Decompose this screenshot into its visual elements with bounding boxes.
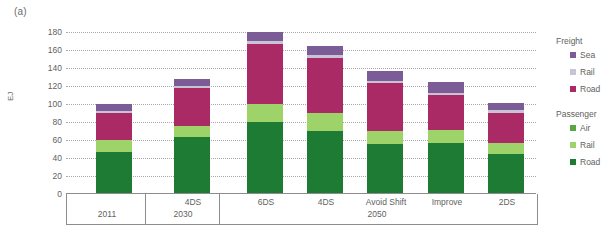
bar-segment[interactable] <box>247 32 283 41</box>
legend-group-title: Freight <box>556 36 613 46</box>
bar-segment[interactable] <box>174 88 210 126</box>
bar-stack[interactable] <box>247 32 283 194</box>
bar-segment[interactable] <box>174 86 210 88</box>
category-label: Improve <box>432 197 463 207</box>
legend-swatch-icon <box>570 159 576 165</box>
bar-segment[interactable] <box>428 82 464 93</box>
bar-segment[interactable] <box>174 137 210 194</box>
bar-segment[interactable] <box>307 55 343 58</box>
bar-segment[interactable] <box>428 93 464 95</box>
bar-stack[interactable] <box>307 46 343 195</box>
panel-label: (a) <box>14 6 27 17</box>
legend-spacer <box>556 101 613 109</box>
legend-item[interactable]: Sea <box>570 50 613 60</box>
bar-segment[interactable] <box>96 152 132 194</box>
bar-stack[interactable] <box>428 82 464 194</box>
y-axis-ticks: 020406080100120140160180 <box>0 32 64 194</box>
bar-segment[interactable] <box>96 111 132 113</box>
legend-item-label: Air <box>580 123 590 133</box>
bar-segment[interactable] <box>96 140 132 152</box>
y-axis-tick-label: 140 <box>48 63 62 73</box>
bar-segment[interactable] <box>488 113 524 143</box>
bar-segment[interactable] <box>488 154 524 194</box>
legend-item[interactable]: Air <box>570 123 613 133</box>
bar-stack[interactable] <box>488 103 524 194</box>
category-axis: 20114DS6DS4DSAvoid ShiftImprove2DS201120… <box>66 194 538 225</box>
category-group-label: 2011 <box>98 209 116 219</box>
bar-segment[interactable] <box>307 58 343 113</box>
y-axis-tick-label: 100 <box>48 99 62 109</box>
y-axis-tick-label: 60 <box>53 135 62 145</box>
y-axis-tick-label: 20 <box>53 171 62 181</box>
y-axis-tick-label: 160 <box>48 45 62 55</box>
bar-stack[interactable] <box>367 71 403 194</box>
bar-segment[interactable] <box>428 143 464 194</box>
y-axis-tick-label: 0 <box>57 189 62 199</box>
category-label: 4DS <box>185 197 202 207</box>
bar-segment[interactable] <box>367 131 403 144</box>
y-axis-tick-label: 120 <box>48 81 62 91</box>
chart-figure: (a) EJ 020406080100120140160180 20114DS6… <box>0 0 613 238</box>
category-label: Avoid Shift <box>366 197 406 207</box>
y-axis-tick-label: 40 <box>53 153 62 163</box>
bar-segment[interactable] <box>247 41 283 44</box>
legend-swatch-icon <box>570 142 576 148</box>
y-axis-tick-label: 80 <box>53 117 62 127</box>
bar-segment[interactable] <box>367 144 403 194</box>
bar-segment[interactable] <box>174 126 210 138</box>
legend-item-label: Road <box>580 84 600 94</box>
category-group-divider <box>219 194 220 224</box>
category-group-label: 2030 <box>174 209 193 219</box>
legend-item-label: Rail <box>580 67 595 77</box>
legend-item[interactable]: Rail <box>570 140 613 150</box>
bar-segment[interactable] <box>174 79 210 86</box>
category-label: 2DS <box>499 197 516 207</box>
category-group-label: 2050 <box>368 209 387 219</box>
bar-segment[interactable] <box>367 83 403 131</box>
bar-segment[interactable] <box>307 46 343 56</box>
bar-segment[interactable] <box>488 143 524 155</box>
legend-item-label: Rail <box>580 140 595 150</box>
bar-stack[interactable] <box>96 104 132 194</box>
bar-segment[interactable] <box>307 113 343 131</box>
legend-swatch-icon <box>570 86 576 92</box>
legend-group-title: Passenger <box>556 109 613 119</box>
bar-segment[interactable] <box>247 122 283 194</box>
category-label: 4DS <box>318 197 335 207</box>
legend-swatch-icon <box>570 52 576 58</box>
legend-item[interactable]: Road <box>570 84 613 94</box>
plot-area <box>66 32 536 194</box>
legend-item-label: Sea <box>580 50 595 60</box>
legend-item[interactable]: Rail <box>570 67 613 77</box>
bar-series-container <box>66 32 536 194</box>
category-group-divider <box>145 194 146 224</box>
bar-segment[interactable] <box>96 113 132 140</box>
bar-stack[interactable] <box>174 79 210 194</box>
legend-item-label: Road <box>580 157 600 167</box>
bar-segment[interactable] <box>428 95 464 130</box>
legend-item[interactable]: Road <box>570 157 613 167</box>
bar-segment[interactable] <box>428 130 464 143</box>
bar-segment[interactable] <box>247 104 283 122</box>
legend-swatch-icon <box>570 69 576 75</box>
category-label: 6DS <box>258 197 275 207</box>
bar-segment[interactable] <box>96 104 132 111</box>
bar-segment[interactable] <box>488 103 524 110</box>
bar-segment[interactable] <box>488 110 524 113</box>
bar-segment[interactable] <box>367 81 403 84</box>
bar-segment[interactable] <box>367 71 403 81</box>
bar-segment[interactable] <box>247 44 283 104</box>
y-axis-tick-label: 180 <box>48 27 62 37</box>
bar-segment[interactable] <box>307 131 343 194</box>
legend-swatch-icon <box>570 125 576 131</box>
chart-legend: FreightSeaRailRoadPassengerAirRailRoad <box>556 36 613 174</box>
